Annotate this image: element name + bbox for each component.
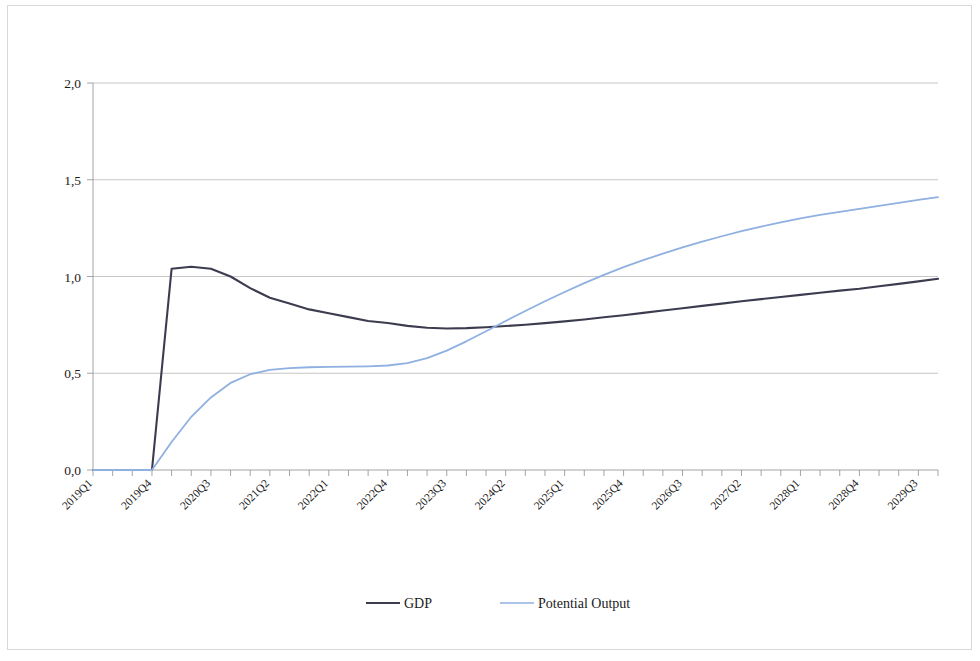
line-chart-canvas: 0,00,51,01,52,02019Q12019Q42020Q32021Q22… — [0, 0, 980, 661]
x-axis-tick-label: 2028Q4 — [826, 477, 861, 512]
x-axis-tick-label: 2020Q3 — [178, 477, 213, 512]
x-axis-tick-label: 2029Q3 — [885, 477, 920, 512]
y-axis-tick-label: 0,5 — [64, 366, 81, 381]
legend-label-gdp: GDP — [404, 596, 432, 611]
x-axis-tick-label: 2026Q3 — [649, 477, 684, 512]
x-axis-tick-label: 2021Q2 — [237, 477, 272, 512]
legend-label-potential-output: Potential Output — [538, 596, 630, 611]
x-axis-tick-label: 2019Q4 — [119, 477, 154, 512]
chart-figure: 0,00,51,01,52,02019Q12019Q42020Q32021Q22… — [0, 0, 980, 661]
gridlines: 0,00,51,01,52,0 — [64, 76, 938, 478]
x-axis-tick-label: 2022Q4 — [354, 477, 389, 512]
x-axis-tick-label: 2025Q4 — [590, 477, 625, 512]
x-axis-tick-label: 2022Q1 — [296, 477, 331, 512]
y-axis-tick-label: 0,0 — [64, 463, 81, 478]
x-axis-tick-labels: 2019Q12019Q42020Q32021Q22022Q12022Q42023… — [60, 477, 920, 512]
series-line-gdp — [93, 267, 938, 470]
y-axis-tick-label: 2,0 — [64, 76, 81, 91]
x-tick-marks — [93, 470, 938, 476]
y-axis-tick-label: 1,0 — [64, 270, 81, 285]
x-axis-tick-label: 2027Q2 — [708, 477, 743, 512]
x-axis-tick-label: 2019Q1 — [60, 477, 95, 512]
x-axis-tick-label: 2028Q1 — [767, 477, 802, 512]
legend: GDPPotential Output — [366, 596, 630, 611]
series-group — [93, 197, 938, 470]
y-axis-tick-label: 1,5 — [64, 173, 81, 188]
x-axis-tick-label: 2024Q2 — [472, 477, 507, 512]
x-axis-tick-label: 2025Q1 — [531, 477, 566, 512]
series-line-potential-output — [93, 197, 938, 470]
x-axis-tick-label: 2023Q3 — [413, 477, 448, 512]
